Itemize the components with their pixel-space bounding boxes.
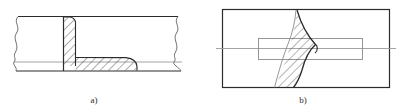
caption-panel-b: b) [299,95,307,105]
panel-b: b) [216,9,396,105]
left-break-line [14,17,18,72]
right-break-line [174,17,181,72]
technical-drawing: a) b) [0,0,401,112]
figure-root: a) b) [0,0,401,112]
caption-panel-a: a) [91,95,98,105]
panel-a: a) [14,13,182,105]
fillet-weld-hatched [74,55,140,73]
